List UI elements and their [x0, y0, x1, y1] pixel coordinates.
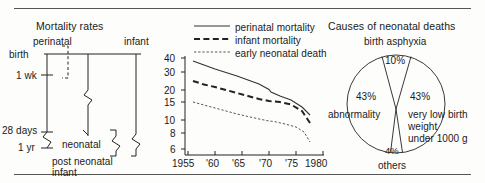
panel-mortality-rates: Mortality rates perinatal infant birth 1… — [0, 8, 162, 174]
left-panel-diagram — [0, 8, 162, 182]
line-chart-plot — [158, 8, 330, 182]
panel-causes-of-neonatal-deaths: Causes of neonatal deaths birth asphyxia… — [320, 8, 485, 174]
pie-outline — [347, 55, 445, 153]
panel-mortality-trends: perinatal mortality infant mortality ear… — [158, 8, 328, 174]
pie-chart-plot — [320, 8, 485, 182]
figure-container: Mortality rates perinatal infant birth 1… — [0, 0, 485, 183]
